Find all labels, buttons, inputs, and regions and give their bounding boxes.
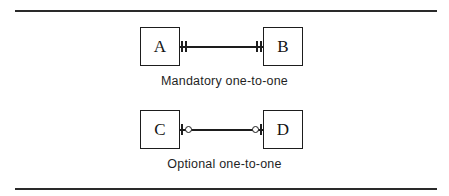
- entity-box-c: C: [140, 110, 180, 149]
- relationship-line-optional: [180, 129, 263, 131]
- cardinality-tick-icon-a-inner: [181, 41, 183, 52]
- relationship-line-mandatory: [180, 46, 263, 48]
- caption-optional-one-to-one: Optional one-to-one: [0, 157, 449, 171]
- entity-box-a: A: [140, 27, 180, 66]
- cardinality-tick-icon-b-inner: [260, 41, 262, 52]
- entity-box-d: D: [263, 110, 303, 149]
- top-horizontal-rule: [15, 10, 437, 12]
- caption-mandatory-one-to-one: Mandatory one-to-one: [0, 74, 449, 88]
- cardinality-tick-icon-a-outer: [185, 41, 187, 52]
- optionality-circle-icon-c: [185, 126, 192, 133]
- er-cardinality-notation-figure: A B Mandatory one-to-one C D Optional on…: [0, 0, 449, 196]
- bottom-horizontal-rule: [15, 188, 437, 190]
- optionality-circle-icon-d: [252, 126, 259, 133]
- cardinality-tick-icon-b-outer: [256, 41, 258, 52]
- cardinality-tick-icon-c: [181, 124, 183, 135]
- entity-box-b: B: [263, 27, 303, 66]
- cardinality-tick-icon-d: [260, 124, 262, 135]
